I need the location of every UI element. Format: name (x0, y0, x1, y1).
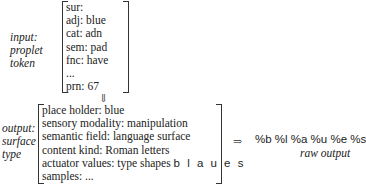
samples: samples: ... (39, 170, 221, 183)
raw-output-value: %b %l %a %u %e %s (255, 133, 366, 145)
feature-sem: sem: pad (63, 41, 128, 54)
output-surface-box: place holder: blue sensory modality: man… (38, 104, 222, 184)
feature-fnc: fnc: have (63, 54, 128, 67)
raw-output-label: raw output (300, 147, 350, 159)
actuator-values-text: actuator values: type shapes (42, 157, 174, 169)
input-label-line: token (10, 57, 43, 70)
sensory-modality: sensory modality: manipulation (39, 117, 221, 130)
output-label-line: output: (2, 122, 36, 135)
input-label-line: input: (10, 31, 43, 44)
input-label: input: proplet token (10, 31, 43, 70)
feature-prn: prn: 67 (63, 80, 128, 93)
output-label-line: surface (2, 135, 36, 148)
feature-adj: adj: blue (63, 14, 128, 27)
feature-ellipsis: ... (63, 67, 128, 80)
content-kind: content kind: Roman letters (39, 144, 221, 157)
place-holder: place holder: blue (39, 104, 221, 117)
feature-sur: sur: (63, 1, 128, 14)
output-label: output: surface type (2, 122, 36, 161)
actuator-letters: b l a u e s (174, 157, 246, 169)
right-arrow-icon: ⇒ (233, 135, 242, 148)
output-label-line: type (2, 148, 36, 161)
feature-cat: cat: adn (63, 27, 128, 40)
input-label-line: proplet (10, 44, 43, 57)
raw-output-string: %b %l %a %u %e %s (255, 133, 366, 145)
input-proplet-box: sur: adj: blue cat: adn sem: pad fnc: ha… (62, 1, 129, 93)
actuator-values: actuator values: type shapes b l a u e s (39, 157, 221, 170)
semantic-field: semantic field: language surface (39, 130, 221, 143)
